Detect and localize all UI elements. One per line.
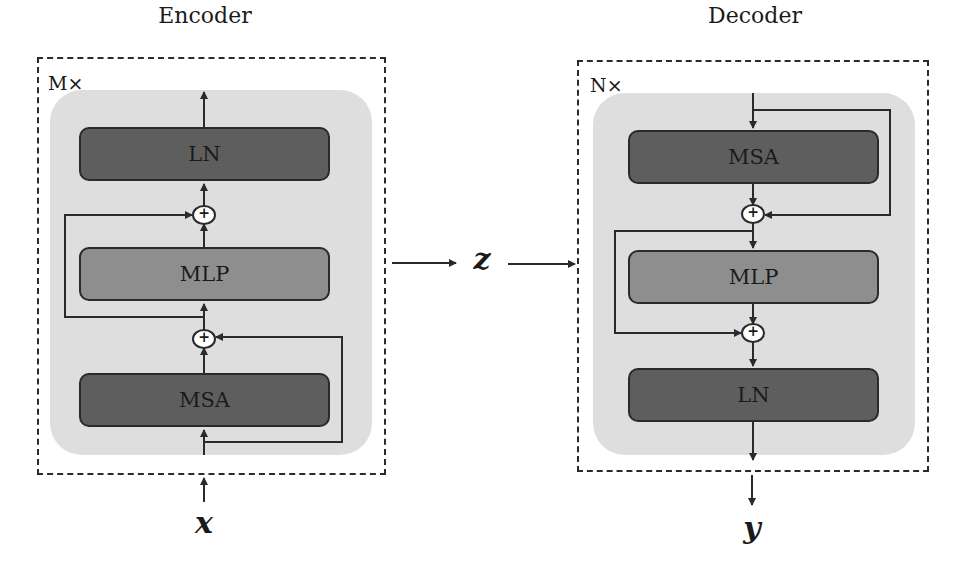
latent-z-label: z [462, 241, 502, 276]
encoder-adder-top-icon: + [198, 205, 210, 221]
output-y-label: y [732, 510, 772, 545]
input-x-label: x [184, 505, 224, 540]
adder-nodes [193, 205, 764, 348]
decoder-adder-bottom-icon: + [747, 323, 759, 339]
decoder-adder-top-icon: + [747, 204, 759, 220]
encoder-adder-bottom-icon: + [198, 329, 210, 345]
connection-lines [0, 0, 959, 575]
